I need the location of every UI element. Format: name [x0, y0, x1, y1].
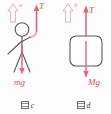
label-acceleration-b: b: [74, 2, 78, 9]
caption-panel-c: c: [0, 100, 55, 110]
caption-panel-d: d: [56, 100, 111, 110]
acceleration-arrow-a-icon: [8, 4, 18, 22]
label-weight-Mg: Mg: [88, 78, 100, 87]
panel-d: b T Mg d: [56, 0, 111, 114]
caption-cjk-glyph-icon: [21, 101, 29, 109]
stick-figure-arm-up: [22, 37, 30, 41]
caption-letter-d: d: [87, 101, 91, 110]
panel-c: a T mg c: [0, 0, 55, 114]
stick-figure-arm-down: [8, 41, 22, 54]
tension-arrow-T-icon: [83, 6, 89, 37]
caption-cjk-glyph-icon: [77, 101, 85, 109]
label-tension-T: T: [89, 6, 94, 15]
panel-d-graphics: [56, 0, 111, 94]
stick-figure-person: [8, 23, 30, 72]
stick-figure-head: [15, 23, 29, 37]
caption-letter-c: c: [31, 101, 35, 110]
panel-c-graphics: [0, 0, 55, 94]
label-tension-T: T: [39, 2, 44, 11]
label-acceleration-a: a: [19, 2, 23, 9]
weight-arrow-mg-icon: [19, 45, 24, 75]
tension-arrow-T-icon: [30, 5, 39, 38]
physics-free-body-diagram-figure: a T mg c b T: [0, 0, 111, 114]
acceleration-arrow-b-icon: [63, 4, 73, 22]
label-weight-mg: mg: [14, 78, 25, 87]
